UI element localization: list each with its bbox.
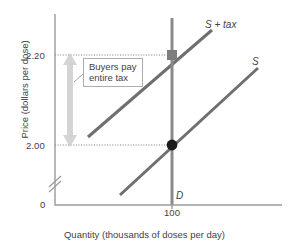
- y-axis-title: Price (dollars per dose): [19, 20, 30, 160]
- with-tax-equilibrium-point: [167, 50, 177, 60]
- demand-label: D: [176, 190, 183, 201]
- supply-plus-tax-label: S + tax: [205, 19, 236, 30]
- y-tick-label-220: 2.20: [26, 50, 45, 61]
- origin-label: 0: [40, 199, 45, 210]
- y-tick-label-200: 2.00: [26, 140, 45, 151]
- callout-line-2: entire tax: [89, 72, 137, 83]
- callout-line-1: Buyers pay: [89, 61, 137, 72]
- tax-gap-arrow: [63, 53, 77, 147]
- callout-leader-line: [74, 74, 83, 82]
- axis-lines: [55, 14, 282, 205]
- chart-canvas: [0, 0, 289, 248]
- supply-label: S: [252, 56, 259, 67]
- x-tick-label-100: 100: [156, 207, 188, 218]
- no-tax-equilibrium-point: [167, 140, 178, 151]
- x-axis-title: Quantity (thousands of doses per day): [0, 229, 289, 240]
- supply-demand-chart: Price (dollars per dose) Quantity (thous…: [0, 0, 289, 248]
- supply-curve: [120, 68, 258, 195]
- buyers-pay-entire-tax-callout: Buyers pay entire tax: [83, 58, 143, 87]
